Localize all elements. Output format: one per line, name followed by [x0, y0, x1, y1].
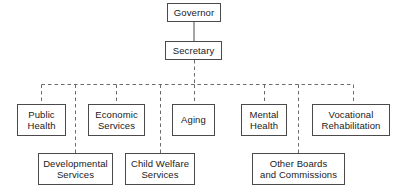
- node-governor-label: Governor: [174, 7, 214, 18]
- node-aging-label: Aging: [181, 114, 206, 125]
- node-child-welfare-services-label: Child Welfare Services: [131, 158, 189, 180]
- node-mental-health[interactable]: Mental Health: [241, 104, 287, 136]
- node-child-welfare-services[interactable]: Child Welfare Services: [125, 153, 195, 185]
- node-secretary[interactable]: Secretary: [165, 41, 222, 60]
- node-other-boards-and-commissions-label: Other Boards and Commissions: [260, 158, 337, 180]
- node-economic-services-label: Economic Services: [95, 109, 138, 131]
- node-secretary-label: Secretary: [173, 45, 215, 56]
- node-vocational-rehabilitation[interactable]: Vocational Rehabilitation: [312, 104, 390, 136]
- node-public-health[interactable]: Public Health: [17, 104, 66, 136]
- node-vocational-rehabilitation-label: Vocational Rehabilitation: [322, 109, 381, 131]
- node-public-health-label: Public Health: [27, 109, 55, 131]
- node-economic-services[interactable]: Economic Services: [88, 104, 145, 136]
- node-developmental-services-label: Developmental Services: [43, 158, 108, 180]
- node-developmental-services[interactable]: Developmental Services: [38, 153, 113, 185]
- node-aging[interactable]: Aging: [172, 104, 215, 136]
- node-other-boards-and-commissions[interactable]: Other Boards and Commissions: [252, 153, 345, 185]
- org-chart-diagram: Governor Secretary Public Health Economi…: [0, 0, 407, 196]
- node-mental-health-label: Mental Health: [249, 109, 278, 131]
- node-governor[interactable]: Governor: [167, 3, 221, 22]
